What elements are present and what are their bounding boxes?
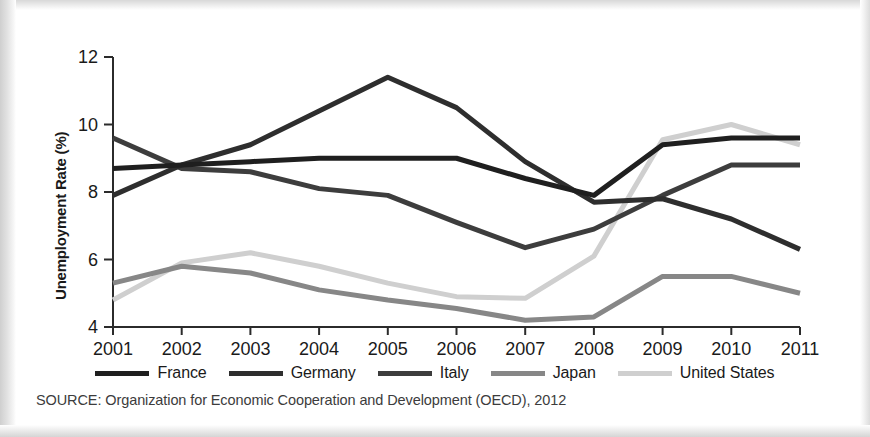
- x-tick-label: 2010: [711, 339, 751, 359]
- x-tick-label: 2005: [368, 339, 408, 359]
- source-note: SOURCE: Organization for Economic Cooper…: [36, 392, 566, 408]
- y-tick-label: 4: [88, 317, 98, 337]
- series-line-japan: [113, 266, 800, 320]
- y-tick-label: 12: [78, 47, 98, 67]
- x-axis-ticks: 2001200220032004200520062007200820092010…: [93, 327, 819, 359]
- legend-line-swatch-icon: [618, 371, 672, 376]
- chart-legend: FranceGermanyItalyJapanUnited States: [0, 358, 870, 388]
- legend-item-france: France: [95, 364, 206, 382]
- series-line-united-states: [113, 125, 800, 301]
- y-tick-label: 10: [78, 115, 98, 135]
- legend-label: France: [157, 364, 206, 382]
- y-axis-ticks: 4681012: [78, 47, 113, 337]
- legend-label: Italy: [440, 364, 469, 382]
- legend-label: Germany: [291, 364, 356, 382]
- line-chart: 4681012 20012002200320042005200620072008…: [0, 0, 870, 360]
- legend-line-swatch-icon: [491, 371, 545, 376]
- x-tick-label: 2002: [162, 339, 202, 359]
- chart-svg: 4681012 20012002200320042005200620072008…: [0, 0, 870, 360]
- series-line-france: [113, 138, 800, 195]
- x-tick-label: 2004: [299, 339, 339, 359]
- chart-series-group: [113, 77, 800, 320]
- x-tick-label: 2008: [574, 339, 614, 359]
- legend-label: United States: [680, 364, 775, 382]
- legend-item-united-states: United States: [618, 364, 775, 382]
- x-tick-label: 2003: [230, 339, 270, 359]
- x-tick-label: 2011: [781, 339, 820, 359]
- legend-line-swatch-icon: [378, 371, 432, 376]
- figure-page: Unemployment Rate (%) 4681012 2001200220…: [0, 0, 870, 437]
- legend-item-germany: Germany: [229, 364, 356, 382]
- x-tick-label: 2006: [436, 339, 476, 359]
- legend-line-swatch-icon: [95, 371, 149, 376]
- y-tick-label: 8: [88, 182, 98, 202]
- legend-label: Japan: [553, 364, 596, 382]
- x-tick-label: 2009: [643, 339, 683, 359]
- legend-item-japan: Japan: [491, 364, 596, 382]
- x-tick-label: 2001: [93, 339, 133, 359]
- legend-item-italy: Italy: [378, 364, 469, 382]
- page-edge-shadow-bottom: [0, 425, 870, 437]
- y-tick-label: 6: [88, 250, 98, 270]
- legend-line-swatch-icon: [229, 371, 283, 376]
- chart-axes: [113, 57, 800, 327]
- x-tick-label: 2007: [505, 339, 545, 359]
